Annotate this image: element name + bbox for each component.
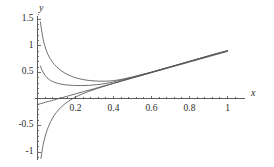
- curve-2: [40, 51, 227, 86]
- x-tick-label: 1: [219, 104, 237, 114]
- plot-figure: 0.20.40.60.81-1-0.50.511.5 x y: [0, 0, 274, 167]
- x-axis-label: x: [251, 88, 255, 98]
- x-tick-label: 0.6: [143, 104, 161, 114]
- curve-1: [40, 22, 227, 81]
- plot-canvas: [0, 0, 274, 167]
- y-tick-label: -0.5: [11, 120, 34, 130]
- curves-group: [38, 22, 228, 158]
- y-axis-label: y: [39, 3, 43, 13]
- ticks-group: [38, 14, 236, 157]
- y-tick-label: 1: [11, 41, 34, 51]
- x-tick-label: 0.2: [67, 104, 85, 114]
- x-tick-label: 0.4: [105, 104, 123, 114]
- x-tick-label: 0.8: [181, 104, 199, 114]
- y-tick-label: 0.5: [11, 67, 34, 77]
- y-tick-label: -1: [11, 147, 34, 157]
- y-tick-label: 1.5: [11, 14, 34, 24]
- axes-group: [35, 16, 245, 160]
